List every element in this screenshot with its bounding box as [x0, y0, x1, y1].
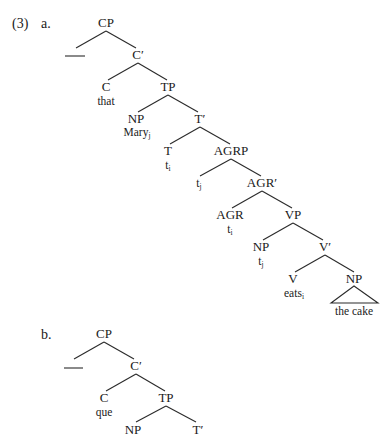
index-i: i — [169, 164, 171, 173]
node-np-subject: NP — [128, 112, 145, 126]
node-b-t-bar: T′ — [193, 423, 204, 437]
tree-a-letter: a. — [41, 16, 51, 32]
word-mary: Maryj — [123, 126, 150, 139]
word-eats-text: eats — [284, 287, 302, 299]
edge-b-cp-cbar — [104, 342, 134, 359]
node-b-c-bar: C′ — [130, 359, 142, 373]
node-agrp: AGRP — [214, 144, 249, 158]
node-cp: CP — [98, 16, 114, 30]
edge-vbar-v — [295, 255, 325, 272]
node-b-tp: TP — [158, 391, 173, 405]
edge-b-cbar-c — [106, 374, 136, 391]
index-j: j — [262, 260, 264, 269]
edge-vp-np — [263, 223, 293, 240]
word-eats: eatsi — [284, 287, 304, 300]
index-i: i — [231, 228, 233, 237]
edge-agrbar-vp — [262, 191, 292, 208]
edge-cp-spec — [76, 31, 106, 48]
edge-b-cp-spec — [74, 342, 104, 359]
word-that: that — [97, 95, 114, 108]
index-j: j — [148, 131, 150, 140]
node-np-object: NP — [346, 272, 363, 286]
word-mary-text: Mary — [123, 126, 148, 138]
edge-b-tp-np — [136, 406, 166, 422]
node-b-np-subject: NP — [125, 423, 142, 437]
node-v: V — [288, 272, 297, 286]
edge-cbar-c — [108, 63, 138, 80]
trace-agr: ti — [227, 223, 232, 236]
node-b-c: C — [100, 391, 109, 405]
example-number: (3) — [12, 16, 28, 32]
node-tp: TP — [160, 80, 175, 94]
edge-agrbar-agr — [232, 191, 262, 208]
node-np-vp-spec: NP — [253, 240, 270, 254]
node-t-bar: T′ — [195, 112, 206, 126]
node-v-bar: V′ — [319, 240, 331, 254]
node-agr-bar: AGR′ — [247, 176, 277, 190]
index-j: j — [200, 182, 202, 191]
edge-cp-cbar — [106, 31, 136, 48]
tree-branches — [0, 0, 391, 437]
edge-tp-tbar — [168, 95, 198, 112]
node-vp: VP — [285, 208, 302, 222]
node-c-bar: C′ — [132, 48, 144, 62]
edge-vp-vbar — [293, 223, 323, 240]
tree-b-letter: b. — [41, 327, 52, 343]
trace-spec-agrp: tj — [196, 177, 201, 190]
node-t: T — [164, 144, 172, 158]
edge-agrp-spec — [200, 159, 231, 176]
edge-b-cbar-tp — [136, 374, 165, 391]
edge-tbar-t — [170, 127, 200, 144]
index-i: i — [302, 292, 304, 301]
edge-cbar-tp — [138, 63, 167, 80]
trace-np-vp-spec: tj — [258, 255, 263, 268]
edge-tbar-agrp — [200, 127, 230, 144]
node-b-cp: CP — [96, 327, 112, 341]
word-que: que — [96, 406, 113, 419]
word-the-cake: the cake — [335, 305, 373, 318]
trace-t-i: ti — [165, 159, 170, 172]
np-triangle — [331, 286, 378, 303]
edge-b-tp-tbar — [166, 406, 196, 422]
node-c: C — [102, 80, 111, 94]
edge-agrp-agrbar — [231, 159, 261, 176]
edge-tp-np — [138, 95, 168, 112]
edge-vbar-np — [325, 255, 354, 272]
node-agr: AGR — [216, 208, 243, 222]
